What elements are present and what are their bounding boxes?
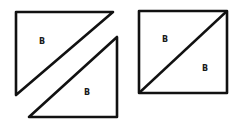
lower-triangle-label: B — [84, 88, 90, 97]
upper-triangle-label: B — [39, 37, 45, 46]
separated-triangles: B B — [16, 12, 117, 117]
lower-right-triangle — [29, 37, 117, 117]
square-upper-label: B — [162, 35, 168, 44]
square-diagonal — [139, 11, 227, 93]
square-lower-label: B — [202, 64, 208, 73]
assembled-square: B B — [139, 11, 227, 93]
hst-diagram: B B B B — [0, 0, 240, 128]
